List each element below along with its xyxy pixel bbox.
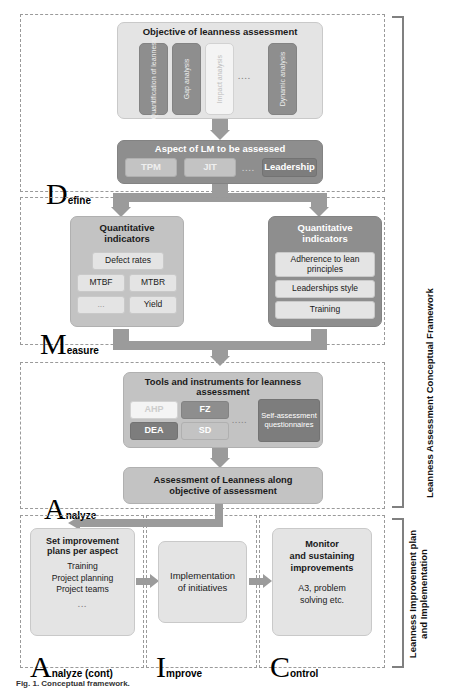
side-label-improvement-line2: and Implementation (418, 549, 429, 639)
aspect-chip-leadership[interactable]: Leadership (262, 158, 317, 177)
arrow-plans-to-implementation (136, 578, 150, 585)
assessment-box: Assessment of Leanness along objective o… (123, 467, 323, 504)
tool-chip-label: Self-assessment questionnaires (261, 412, 317, 429)
measure-left-item-mtbr[interactable]: MTBR (129, 274, 177, 292)
tools-title-line1: Tools and instruments for leanness (145, 377, 301, 387)
measure-item-label: Adherence to lean principles (276, 255, 374, 274)
plans-item: Training (67, 561, 98, 571)
plans-item: Project planning (52, 573, 114, 583)
phase-rest: nalyze (cont) (52, 668, 113, 679)
objective-chip-label: Quantification of leanness (150, 39, 158, 120)
arrow-objective-to-aspect-head (210, 130, 230, 140)
measure-right-title-line2: indicators (302, 233, 347, 244)
tool-chip-self-assessment[interactable]: Self-assessment questionnaires (258, 399, 320, 442)
plans-item: Project teams (56, 584, 109, 594)
measure-item-label: Yield (144, 300, 163, 309)
improvement-plans-ellipsis: ... (78, 600, 88, 609)
phase-rest: ontrol (290, 668, 318, 679)
measure-right-item-adherence[interactable]: Adherence to lean principles (275, 252, 375, 277)
tools-ellipsis: ..... (232, 416, 247, 425)
assessment-line1: Assessment of Leanness along (154, 475, 293, 485)
monitor-sub-line2: solving etc. (300, 595, 344, 605)
phase-label-analyze-cont: A nalyze (cont) (30, 655, 113, 679)
measure-right-title: Quantitative indicators (298, 223, 353, 244)
figure-caption: Fig. 1. Conceptual framework. (16, 679, 130, 688)
arrow-implementation-to-monitor-head (263, 574, 272, 588)
tool-chip-label: AHP (144, 405, 163, 415)
implementation-box: Implementation of initiatives (158, 541, 247, 623)
arrow-objective-to-aspect (212, 119, 228, 130)
bracket-framework (392, 16, 404, 508)
measure-item-label: Leaderships style (292, 284, 358, 293)
aspect-chip-label: TPM (141, 162, 161, 172)
objective-chip-impact-analysis[interactable]: Impact analysis (205, 43, 234, 115)
phase-letter: A (30, 655, 52, 679)
objective-chip-dynamic-analysis[interactable]: Dynamic analysis (268, 43, 297, 115)
arrow-measure-merge-bar (113, 341, 327, 350)
aspect-chip-jit[interactable]: JIT (184, 158, 236, 177)
side-label-improvement-line1: Leanness Improvement plan (407, 530, 418, 658)
phase-letter: M (40, 332, 67, 356)
plans-title-line2: plans per aspect (47, 546, 118, 556)
monitor-sub-line1: A3, problem (298, 583, 345, 593)
implementation-line1: Implementation (170, 570, 235, 581)
objective-title: Objective of leanness assessment (118, 27, 322, 38)
improvement-plans-title: Set improvement plans per aspect (46, 536, 119, 556)
aspect-title: Aspect of LM to be assessed (118, 144, 322, 155)
measure-right-item-training[interactable]: Training (275, 301, 375, 319)
measure-left-item-mtbf[interactable]: MTBF (77, 274, 125, 292)
tool-chip-label: SD (199, 426, 212, 436)
implementation-title: Implementation of initiatives (170, 570, 235, 595)
phase-rest: mprove (166, 668, 202, 679)
tools-title: Tools and instruments for leanness asses… (145, 377, 301, 398)
tool-chip-dea[interactable]: DEA (130, 422, 178, 440)
phase-label-improve: I mprove (156, 655, 202, 679)
assessment-title: Assessment of Leanness along objective o… (154, 475, 293, 496)
measure-left-title-line1: Quantitative (100, 222, 155, 233)
objective-chip-label: Dynamic analysis (279, 52, 287, 106)
measure-item-label: MTBF (89, 278, 112, 287)
tool-chip-sd[interactable]: SD (181, 422, 229, 440)
monitor-title: Monitor and sustaining improvements (290, 539, 355, 574)
phase-letter: C (270, 655, 290, 679)
phase-letter: I (156, 655, 166, 679)
objective-chip-quantification[interactable]: Quantification of leanness (139, 43, 168, 115)
measure-left-item-yield[interactable]: Yield (129, 296, 177, 314)
tool-chip-label: DEA (144, 426, 163, 436)
side-label-framework: Leanness Assessment Conceptual Framework (424, 288, 435, 498)
improvement-plans-items: Training Project planning Project teams (52, 561, 114, 595)
arrow-implementation-to-monitor (249, 578, 263, 585)
monitor-sub: A3, problem solving etc. (298, 583, 345, 606)
phase-rest: easure (67, 345, 99, 356)
tool-chip-ahp[interactable]: AHP (130, 401, 178, 419)
side-label-improvement: Leanness Improvement plan and Implementa… (407, 519, 429, 669)
aspect-chip-tpm[interactable]: TPM (125, 158, 177, 177)
monitor-box: Monitor and sustaining improvements A3, … (272, 528, 372, 636)
plans-title-line1: Set improvement (46, 536, 119, 546)
tool-chip-label: FZ (200, 405, 211, 415)
phase-label-control: C ontrol (270, 655, 318, 679)
arrow-tools-to-assessment (212, 448, 228, 458)
measure-left-item-ellipsis[interactable]: ... (77, 296, 125, 314)
bracket-improvement (392, 518, 404, 668)
measure-item-label: Training (310, 305, 340, 314)
arrow-measure-merge-right-leg (311, 329, 327, 341)
aspect-chip-label: JIT (203, 162, 217, 172)
objective-chip-gap-analysis[interactable]: Gap analysis (172, 43, 201, 115)
measure-item-label: Defect rates (105, 256, 151, 265)
monitor-line1: Monitor (305, 539, 339, 549)
arrow-aspect-fork-stem (212, 184, 228, 193)
objective-chip-label: Gap analysis (183, 59, 191, 99)
objective-ellipsis: .... (238, 72, 251, 81)
measure-left-item-defect-rates[interactable]: Defect rates (92, 252, 164, 270)
monitor-line3: improvements (291, 563, 354, 573)
measure-item-label: ... (97, 300, 104, 309)
tool-chip-fz[interactable]: FZ (181, 401, 229, 419)
measure-right-title-line1: Quantitative (298, 222, 353, 233)
aspect-chip-label: Leadership (264, 162, 315, 172)
implementation-line2: of initiatives (178, 582, 228, 593)
measure-right-item-leadership-style[interactable]: Leaderships style (275, 280, 375, 298)
aspect-ellipsis: .... (242, 164, 255, 173)
phase-label-measure: M easure (40, 332, 99, 356)
